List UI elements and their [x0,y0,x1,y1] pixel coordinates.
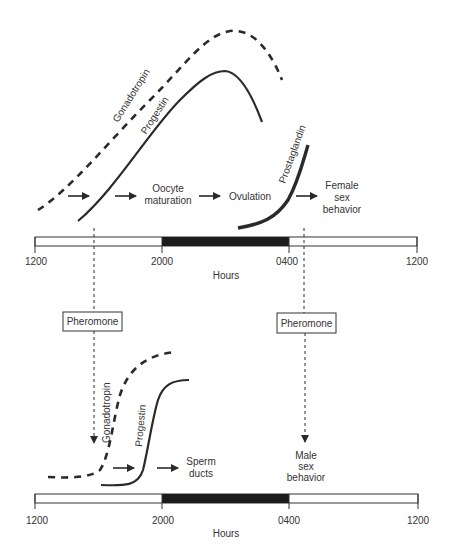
male-gonadotropin-label: Gonadotropin [101,382,112,443]
female-behavior-label-line2: sex [334,192,350,203]
tick-label: 0400 [276,256,299,267]
tick-label: 2000 [151,256,174,267]
female-prostaglandin-curve [238,145,308,228]
sperm-ducts-label: Sperm [186,456,215,467]
hormone-timeline-diagram: Gonadotropin Progestin Prostaglandin Ooc… [0,0,455,556]
axis-label: Hours [213,270,240,281]
male-panel: Gonadotropin Progestin Sperm ducts Male … [26,352,430,539]
female-behavior-label: Female [325,180,359,191]
male-behavior-label-line3: behavior [287,472,326,483]
male-behavior-label: Male [295,450,317,461]
pheromone-label-left: Pheromone [67,316,119,327]
pheromone-label-right: Pheromone [281,318,333,329]
axis-label: Hours [213,528,240,539]
female-gonadotropin-label: Gonadotropin [110,67,151,124]
female-panel: Gonadotropin Progestin Prostaglandin Ooc… [25,31,429,281]
male-behavior-label-line2: sex [298,461,314,472]
male-time-axis: 1200 2000 0400 1200 Hours [26,494,430,539]
sperm-ducts-label-line2: ducts [189,468,213,479]
tick-label: 1200 [26,515,49,526]
ovulation-label: Ovulation [229,191,271,202]
tick-label: 1200 [406,256,429,267]
tick-label: 1200 [25,256,48,267]
tick-label: 0400 [278,515,301,526]
male-progestin-label: Progestin [133,404,148,447]
female-prostaglandin-label: Prostaglandin [277,123,308,184]
female-time-axis: 1200 2000 0400 1200 Hours [25,237,429,281]
tick-label: 2000 [152,515,175,526]
tick-label: 1200 [407,515,430,526]
female-behavior-label-line3: behavior [323,204,362,215]
oocyte-label: Oocyte [152,183,184,194]
oocyte-label-line2: maturation [144,195,191,206]
